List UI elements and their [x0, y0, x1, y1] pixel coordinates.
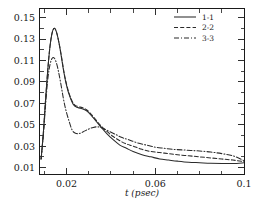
chart-figure: 0.010.030.050.070.090.110.130.150.020.06…: [0, 0, 254, 205]
legend-label-2: 2-2: [202, 23, 214, 32]
legend-label-1: 1-1: [202, 13, 214, 22]
y-tick-label: 0.15: [14, 12, 35, 23]
legend-label-3: 3-3: [202, 34, 214, 43]
axis-tick-labels: 0.010.030.050.070.090.110.130.150.020.06…: [14, 12, 252, 189]
y-tick-label: 0.13: [14, 33, 35, 44]
y-tick-label: 0.09: [14, 76, 35, 87]
series-line-2: [41, 28, 244, 161]
x-tick-label: 0.02: [56, 178, 77, 189]
series-line-3: [41, 58, 244, 161]
x-axis-title: t (psec): [125, 188, 160, 198]
y-tick-label: 0.11: [14, 55, 35, 66]
data-series-group: [41, 28, 244, 163]
y-tick-label: 0.01: [14, 162, 35, 173]
x-tick-label: 0.1: [236, 178, 251, 189]
series-line-1: [41, 28, 244, 163]
y-tick-label: 0.07: [14, 98, 35, 109]
chart-legend: 1-12-23-3: [174, 13, 214, 43]
line-chart-plot: 0.010.030.050.070.090.110.130.150.020.06…: [0, 0, 254, 205]
y-tick-label: 0.05: [14, 119, 35, 130]
y-tick-label: 0.03: [14, 141, 35, 152]
